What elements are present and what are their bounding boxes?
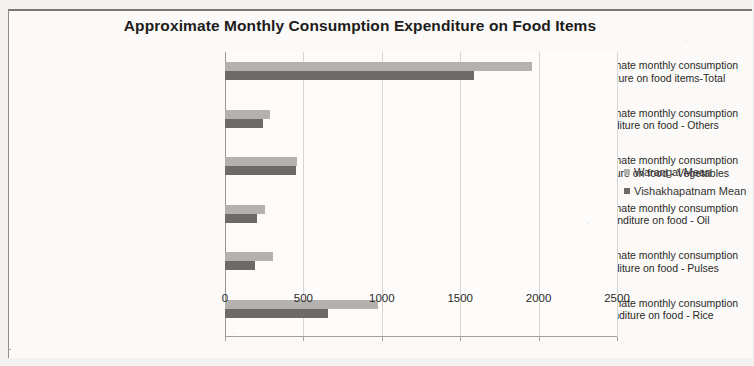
x-tick-label: 2500 — [604, 292, 630, 304]
bar — [225, 205, 265, 214]
chart-legend: Warangal MeanVishakhapatnam Mean — [624, 162, 754, 200]
legend-swatch-icon — [624, 188, 630, 194]
bar — [225, 166, 296, 175]
tick-mark — [303, 337, 304, 341]
bar-group — [225, 195, 617, 243]
bar — [225, 214, 257, 223]
bar — [225, 119, 263, 128]
legend-item[interactable]: Vishakhapatnam Mean — [624, 181, 754, 200]
bar — [225, 261, 255, 270]
chart-title: Approximate Monthly Consumption Expendit… — [60, 17, 660, 35]
legend-item[interactable]: Warangal Mean — [624, 162, 754, 181]
bar-group — [225, 147, 617, 195]
bar — [225, 71, 474, 80]
legend-label: Vishakhapatnam Mean — [634, 185, 746, 197]
tick-mark — [460, 337, 461, 341]
x-tick-label: 1000 — [369, 292, 395, 304]
bar — [225, 62, 532, 71]
bar-group — [225, 290, 617, 338]
legend-swatch-icon — [624, 169, 630, 175]
chart-figure: Approximate Monthly Consumption Expendit… — [0, 0, 754, 366]
tick-mark — [382, 337, 383, 341]
bar — [225, 110, 270, 119]
x-tick-label: 2000 — [526, 292, 552, 304]
x-axis-line — [225, 336, 617, 337]
bar — [225, 157, 297, 166]
plot-area — [225, 52, 617, 337]
tick-mark — [225, 337, 226, 341]
bar-group — [225, 52, 617, 100]
bar-group — [225, 242, 617, 290]
bar — [225, 252, 273, 261]
tick-mark — [617, 337, 618, 341]
bar — [225, 309, 328, 318]
tick-mark — [539, 337, 540, 341]
x-tick-label: 500 — [294, 292, 313, 304]
x-tick-label: 1500 — [447, 292, 473, 304]
legend-label: Warangal Mean — [634, 166, 711, 178]
bar-group — [225, 100, 617, 148]
x-tick-label: 0 — [222, 292, 228, 304]
